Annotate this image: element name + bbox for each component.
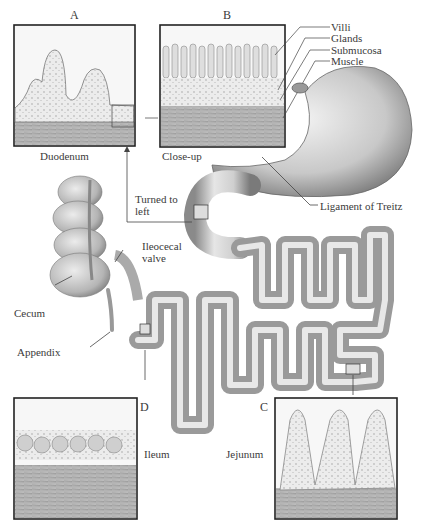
caption-duodenum: Duodenum (40, 150, 89, 162)
panel-c-jejunum (275, 398, 397, 519)
label-muscle: Muscle (331, 55, 363, 67)
label-ligament-of-treitz: Ligament of Treitz (320, 200, 403, 212)
label-cecum: Cecum (14, 307, 45, 319)
panel-d-ileum (14, 398, 137, 519)
colon (50, 176, 138, 330)
panel-letter-d: D (140, 400, 149, 415)
panel-letter-c: C (260, 400, 268, 415)
panel-letter-a: A (70, 8, 79, 23)
caption-ileum: Ileum (144, 448, 170, 460)
digestive-tract-illustration (0, 0, 429, 521)
caption-closeup: Close-up (162, 150, 202, 162)
panel-b-closeup (160, 25, 285, 147)
panel-a-duodenum (14, 25, 135, 146)
label-glands: Glands (331, 32, 362, 44)
label-ileocecal-valve: Ileocecal valve (142, 240, 192, 264)
label-appendix: Appendix (17, 346, 60, 358)
panel-letter-b: B (223, 8, 231, 23)
label-turned-to-left: Turned to left (135, 193, 185, 217)
caption-jejunum: Jejunum (226, 448, 263, 460)
